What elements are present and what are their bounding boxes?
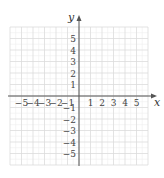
y-tick-label: −4 — [63, 138, 77, 148]
x-tick-label: 1 — [88, 98, 94, 108]
coordinate-plane: x y −5−4−3−2−112345 54321−1−2−3−4−5 — [0, 0, 164, 178]
x-tick-label: 5 — [134, 98, 140, 108]
y-tick-label: 5 — [70, 34, 76, 44]
y-tick-label: 2 — [70, 69, 76, 79]
x-tick-labels: −5−4−3−2−112345 — [15, 98, 140, 108]
y-axis-arrow-icon — [77, 15, 82, 21]
x-tick-label: 2 — [99, 98, 105, 108]
x-tick-label: 3 — [111, 98, 117, 108]
y-tick-label: −1 — [63, 103, 76, 113]
y-tick-label: −2 — [63, 115, 76, 125]
x-tick-label: 4 — [122, 98, 128, 108]
y-tick-label: 3 — [70, 57, 76, 67]
y-tick-label: 4 — [70, 46, 76, 56]
y-tick-label: −3 — [63, 126, 77, 136]
y-axis-label: y — [67, 11, 75, 24]
x-axis-label: x — [154, 96, 161, 109]
y-tick-label: −5 — [63, 149, 77, 159]
y-tick-label: 1 — [70, 80, 76, 90]
